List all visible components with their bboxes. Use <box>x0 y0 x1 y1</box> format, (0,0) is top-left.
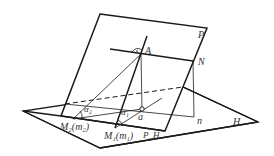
geometry-diagram <box>0 0 274 156</box>
label-alpha1: α₁ <box>121 108 129 117</box>
label-h: H <box>233 117 240 127</box>
label-a-upper: A <box>145 46 151 56</box>
label-p: P <box>198 30 204 40</box>
label-m2: M₂(m₂) <box>60 122 89 132</box>
label-a-lower: a <box>138 112 143 122</box>
line-nn <box>193 61 194 117</box>
label-ph: P_H <box>143 131 160 140</box>
label-m1: M₁(m₁) <box>104 131 133 141</box>
right-angle-dot <box>136 50 138 52</box>
label-n-upper: N <box>198 57 205 67</box>
label-alpha2: α₂ <box>84 105 92 114</box>
label-n-lower: n <box>197 116 202 126</box>
